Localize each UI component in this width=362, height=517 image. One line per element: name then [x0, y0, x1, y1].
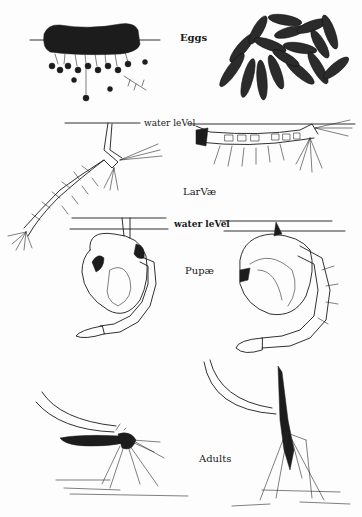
egg-raft-illustration	[30, 24, 160, 101]
eggs-label: Eggs	[180, 33, 207, 43]
larvae-label: LarVæ	[183, 187, 216, 197]
pupa-left-illustration	[76, 218, 156, 338]
adult-horizontal-illustration	[36, 392, 188, 496]
water-level-label-pupae: water leVel	[174, 220, 230, 229]
illustration-artwork	[0, 0, 362, 517]
larva-hanging-illustration	[8, 123, 162, 250]
pupae-label: Pupæ	[185, 266, 214, 276]
adult-angled-illustration	[204, 360, 350, 506]
larva-horizontal-illustration	[196, 120, 352, 172]
pupa-right-illustration	[236, 222, 338, 353]
adults-label: Adults	[199, 454, 231, 464]
water-level-label-larvae: water leVel	[144, 119, 195, 128]
mosquito-life-cycle-figure: Eggs water leVel LarVæ water leVel Pupæ …	[0, 0, 362, 517]
magnified-eggs-illustration	[216, 12, 351, 100]
